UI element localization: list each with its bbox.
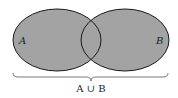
union-label: A ∪ B: [75, 83, 105, 94]
set-a-label: A: [18, 35, 26, 46]
venn-diagram: A B A ∪ B: [0, 0, 178, 98]
union-brace: [13, 73, 168, 81]
set-b-label: B: [155, 35, 163, 46]
